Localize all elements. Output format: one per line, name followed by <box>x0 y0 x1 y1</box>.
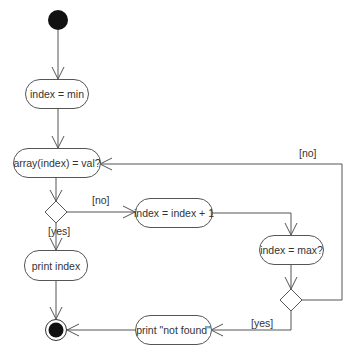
diagram-edges <box>0 0 356 359</box>
decision-diamond-2 <box>280 289 302 311</box>
activity-increment: index = index + 1 <box>135 198 213 228</box>
activity-print-index: print index <box>24 250 88 281</box>
guard-no-1: [no] <box>92 194 110 206</box>
guard-yes-2: [yes] <box>251 317 273 329</box>
activity-index-min: index = min <box>25 79 89 109</box>
start-node <box>48 10 68 30</box>
activity-check-value: array(index) = val? <box>13 148 101 178</box>
activity-print-not-found: print "not found" <box>135 315 212 345</box>
guard-no-loop: [no] <box>299 147 317 159</box>
decision-diamond-1 <box>45 201 67 223</box>
guard-yes-1: [yes] <box>48 225 70 237</box>
end-node <box>49 323 64 338</box>
activity-check-max: index = max? <box>259 235 324 265</box>
